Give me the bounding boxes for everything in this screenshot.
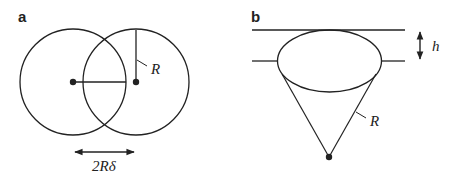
panel-b-label: b	[251, 8, 260, 25]
radius-label-a: R	[150, 61, 160, 77]
panel-a-label: a	[18, 8, 27, 25]
radius-leader-line	[137, 60, 147, 66]
right-center-dot	[133, 79, 139, 85]
separation-label: 2Rδ	[92, 158, 117, 174]
radius-label-b: R	[369, 113, 379, 129]
apex-dot	[326, 154, 332, 160]
cone-left-edge	[282, 74, 329, 157]
cone-radius-leader-line	[356, 112, 366, 118]
height-label: h	[432, 38, 440, 54]
panel-b: b R h	[251, 8, 440, 160]
figure: a R 2Rδ b R h	[0, 0, 452, 180]
cone-right-edge	[329, 74, 376, 157]
cap-ellipse	[278, 30, 382, 92]
panel-a: a R 2Rδ	[18, 8, 189, 174]
left-center-dot	[70, 79, 76, 85]
